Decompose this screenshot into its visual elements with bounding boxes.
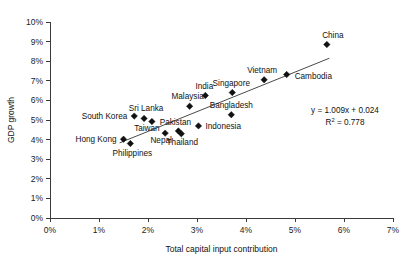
- data-label: Singapore: [213, 79, 251, 88]
- y-tick-label-9: 9%: [31, 37, 44, 47]
- x-tick-label-4: 4%: [240, 225, 253, 235]
- x-tick-label-6: 6%: [338, 225, 351, 235]
- data-marker: [186, 103, 192, 109]
- chart-canvas: 0%1%2%3%4%5%6%7%8%9%10% 0%1%2%3%4%5%6%7%…: [0, 0, 414, 269]
- data-label: Bangladesh: [210, 101, 254, 110]
- y-tick-label-5: 5%: [31, 115, 44, 125]
- data-marker: [324, 41, 330, 47]
- y-tick-label-8: 8%: [31, 56, 44, 66]
- data-marker: [228, 112, 234, 118]
- data-marker: [120, 136, 126, 142]
- data-point-labels: ChinaCambodiaVietnamSingaporeIndiaBangla…: [76, 31, 344, 158]
- data-label: Nepal: [150, 136, 172, 145]
- regression-equation: y = 1.009x + 0.024: [311, 106, 379, 115]
- data-label: Indonesia: [205, 122, 241, 131]
- y-axis-title: GDP growth: [6, 97, 16, 143]
- x-tick-label-3: 3%: [191, 225, 204, 235]
- y-tick-label-2: 2%: [31, 174, 44, 184]
- data-label: India: [195, 82, 213, 91]
- data-label: Cambodia: [295, 72, 333, 81]
- data-label: China: [322, 31, 344, 40]
- x-tick-label-2: 2%: [142, 225, 155, 235]
- data-label: Malaysia: [171, 92, 204, 101]
- x-tick-label-7: 7%: [387, 225, 400, 235]
- data-marker: [261, 77, 267, 83]
- data-label: Taiwan: [134, 124, 160, 133]
- data-marker: [141, 115, 147, 121]
- scatter-chart: 0%1%2%3%4%5%6%7%8%9%10% 0%1%2%3%4%5%6%7%…: [0, 0, 414, 269]
- data-marker: [229, 89, 235, 95]
- r-squared-annotation: R2 = 0.778: [326, 117, 365, 127]
- y-tick-label-7: 7%: [31, 76, 44, 86]
- y-tick-label-4: 4%: [31, 135, 44, 145]
- y-tick-label-3: 3%: [31, 154, 44, 164]
- x-tick-label-0: 0%: [44, 225, 57, 235]
- data-marker: [195, 123, 201, 129]
- data-label: South Korea: [82, 112, 128, 121]
- data-marker: [127, 140, 133, 146]
- data-label: Sri Lanka: [129, 104, 164, 113]
- x-tick-label-5: 5%: [289, 225, 302, 235]
- y-tick-label-6: 6%: [31, 95, 44, 105]
- x-axis-title: Total capital input contribution: [166, 244, 278, 254]
- y-tick-label-10: 10%: [26, 17, 43, 27]
- y-tick-label-0: 0%: [31, 213, 44, 223]
- y-axis-ticks: 0%1%2%3%4%5%6%7%8%9%10%: [26, 17, 50, 223]
- data-label: Vietnam: [247, 66, 277, 75]
- x-tick-label-1: 1%: [93, 225, 106, 235]
- data-label: Philippines: [113, 149, 153, 158]
- y-tick-label-1: 1%: [31, 193, 44, 203]
- x-axis-ticks: 0%1%2%3%4%5%6%7%: [44, 218, 400, 235]
- data-label: Hong Kong: [76, 135, 117, 144]
- data-marker: [131, 113, 137, 119]
- data-label: Pakistan: [160, 118, 192, 127]
